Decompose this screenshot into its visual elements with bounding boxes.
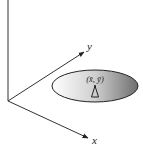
x-axis-label: x	[91, 134, 97, 146]
x-axis	[8, 101, 88, 138]
center-label: (x̄, ȳ)	[86, 74, 104, 84]
coordinate-diagram: y x (x̄, ȳ)	[0, 0, 143, 158]
y-axis-label: y	[86, 40, 92, 52]
